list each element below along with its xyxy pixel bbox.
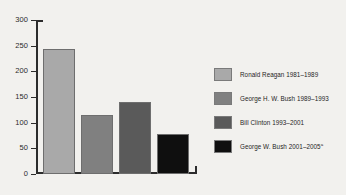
y-tick-label-50: 50 — [19, 143, 28, 152]
y-tick-label-0: 0 — [24, 169, 28, 178]
y-tick-100: 100 — [31, 123, 36, 124]
y-tick-0: 0 — [31, 174, 36, 175]
y-tick-label-100: 100 — [15, 118, 28, 127]
legend-label-clinton: Bill Clinton 1993–2001 — [240, 119, 304, 126]
legend-label-gw-bush-text: George W. Bush 2001–2005 — [240, 143, 321, 150]
legend-swatch-clinton — [214, 116, 232, 129]
y-tick-label-200: 200 — [15, 66, 28, 75]
plot-area: 300 250 200 150 100 50 0 — [0, 0, 210, 195]
legend-footnote-marker: a — [321, 142, 324, 147]
bar-clinton — [119, 102, 151, 174]
y-tick-250: 250 — [31, 46, 36, 47]
legend-item-clinton: Bill Clinton 1993–2001 — [214, 110, 346, 134]
legend-item-reagan: Ronald Reagan 1981–1989 — [214, 62, 346, 86]
legend-label-gw-bush: George W. Bush 2001–2005a — [240, 142, 323, 150]
y-tick-50: 50 — [31, 148, 36, 149]
bar-chart: 300 250 200 150 100 50 0 Ronald Reagan 1… — [0, 0, 346, 195]
y-tick-label-150: 150 — [15, 92, 28, 101]
legend-swatch-reagan — [214, 68, 232, 81]
y-axis-top-cap — [36, 20, 43, 22]
y-tick-300: 300 — [31, 20, 36, 21]
y-tick-200: 200 — [31, 71, 36, 72]
bar-gw-bush — [157, 134, 189, 174]
y-tick-label-250: 250 — [15, 41, 28, 50]
legend-label-ghw-bush: George H. W. Bush 1989–1993 — [240, 95, 329, 102]
legend-item-ghw-bush: George H. W. Bush 1989–1993 — [214, 86, 346, 110]
y-tick-150: 150 — [31, 97, 36, 98]
bar-reagan — [43, 49, 75, 174]
y-tick-label-300: 300 — [15, 15, 28, 24]
x-axis-end-cap — [195, 166, 197, 174]
legend-label-reagan: Ronald Reagan 1981–1989 — [240, 71, 318, 78]
chart-legend: Ronald Reagan 1981–1989 George H. W. Bus… — [214, 62, 346, 158]
legend-item-gw-bush: George W. Bush 2001–2005a — [214, 134, 346, 158]
legend-swatch-gw-bush — [214, 140, 232, 153]
y-axis-line — [36, 20, 38, 174]
bar-ghw-bush — [81, 115, 113, 174]
legend-swatch-ghw-bush — [214, 92, 232, 105]
